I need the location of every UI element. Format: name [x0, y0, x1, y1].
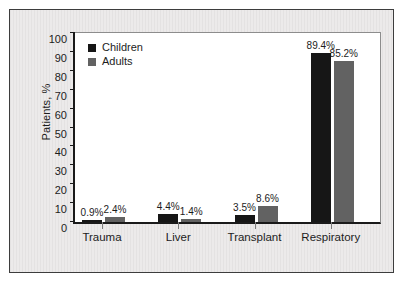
bar-value-label: 0.9%	[81, 207, 104, 218]
x-axis-category-label: Trauma	[82, 231, 121, 243]
bar-transplant-adults[interactable]	[258, 206, 278, 222]
y-axis-title: Patients, %	[40, 57, 52, 167]
x-axis-category-label: Liver	[166, 231, 191, 243]
bar-series-container: 0.9%2.4%Trauma4.4%1.4%Liver3.5%8.6%Trans…	[75, 33, 380, 222]
bar-transplant-children[interactable]	[235, 215, 255, 222]
bar-liver-adults[interactable]	[181, 219, 201, 222]
x-axis-tick	[331, 222, 332, 229]
x-axis-tick	[178, 222, 179, 229]
bar-liver-children[interactable]	[158, 214, 178, 222]
bar-value-label: 2.4%	[104, 204, 127, 215]
bar-group: 4.4%1.4%Liver	[151, 33, 227, 222]
bar-value-label: 3.5%	[233, 202, 256, 213]
bar-value-label: 85.2%	[330, 48, 358, 59]
bar-respiratory-adults[interactable]	[334, 61, 354, 222]
plot-area: 0102030405060708090100 ChildrenAdults 0.…	[73, 32, 381, 224]
bar-value-label: 1.4%	[180, 206, 203, 217]
x-axis-category-label: Transplant	[228, 231, 282, 243]
x-axis-category-label: Respiratory	[301, 231, 360, 243]
bar-value-label: 8.6%	[256, 193, 279, 204]
bar-group: 0.9%2.4%Trauma	[75, 33, 151, 222]
bar-value-label: 4.4%	[157, 201, 180, 212]
x-axis-tick	[102, 222, 103, 229]
bar-group: 89.4%85.2%Respiratory	[304, 33, 380, 222]
x-axis-tick	[255, 222, 256, 229]
bar-respiratory-children[interactable]	[311, 53, 331, 222]
bar-trauma-adults[interactable]	[105, 217, 125, 222]
bar-group: 3.5%8.6%Transplant	[228, 33, 304, 222]
bar-trauma-children[interactable]	[82, 220, 102, 222]
figure-frame: Patients, % 0102030405060708090100 Child…	[9, 9, 394, 273]
